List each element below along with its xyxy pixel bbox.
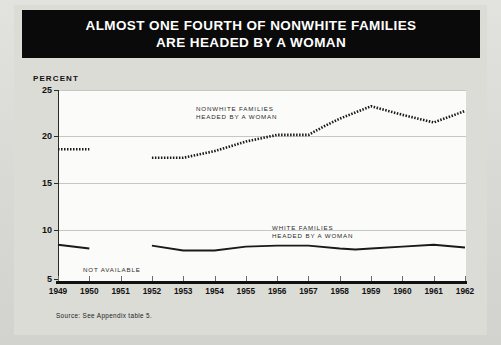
x-tick-mark-1955 [246, 90, 247, 281]
x-tick-mark-1959 [371, 90, 372, 281]
y-tick-label-15: 15 [26, 178, 52, 188]
x-tick-1954 [215, 276, 216, 281]
x-tick-mark-1952 [152, 90, 153, 281]
x-tick-label-1957: 1957 [299, 286, 317, 296]
x-tick-label-1952: 1952 [143, 286, 161, 296]
x-tick-1959 [371, 276, 372, 281]
y-tick-label-10: 10 [26, 225, 52, 235]
annotation-nonwhite-line1: NONWHITE FAMILIES [196, 105, 277, 113]
annotation-not-available: NOT AVAILABLE [83, 266, 141, 273]
x-tick-label-1950: 1950 [80, 286, 98, 296]
x-tick-mark-1951 [121, 90, 122, 281]
annotation-nonwhite-line2: HEADED BY A WOMAN [196, 113, 277, 121]
x-tick-mark-1960 [402, 90, 403, 281]
annotation-white-line1: WHITE FAMILIES [272, 224, 353, 232]
source-note: Source: See Appendix table 5. [56, 312, 152, 319]
x-tick-1952 [152, 276, 153, 281]
annotation-nonwhite: NONWHITE FAMILIES HEADED BY A WOMAN [196, 105, 277, 121]
y-tick-label-25: 25 [26, 85, 52, 95]
x-tick-mark-1954 [215, 90, 216, 281]
x-tick-1956 [277, 276, 278, 281]
x-tick-label-1949: 1949 [49, 286, 67, 296]
x-tick-1961 [434, 276, 435, 281]
x-tick-1949 [58, 276, 59, 281]
x-tick-label-1954: 1954 [205, 286, 223, 296]
x-tick-mark-1962 [465, 90, 466, 281]
x-tick-1957 [308, 276, 309, 281]
x-tick-label-1953: 1953 [174, 286, 192, 296]
annotation-white: WHITE FAMILIES HEADED BY A WOMAN [272, 224, 353, 240]
x-tick-1962 [465, 276, 466, 281]
x-tick-mark-1950 [89, 90, 90, 281]
x-tick-1953 [183, 276, 184, 281]
x-tick-label-1958: 1958 [331, 286, 349, 296]
x-tick-label-1955: 1955 [237, 286, 255, 296]
x-tick-label-1956: 1956 [268, 286, 286, 296]
x-tick-label-1951: 1951 [111, 286, 129, 296]
x-tick-1950 [89, 276, 90, 281]
x-tick-mark-1957 [308, 90, 309, 281]
x-tick-mark-1961 [434, 90, 435, 281]
y-tick-label-20: 20 [26, 131, 52, 141]
x-tick-1958 [340, 276, 341, 281]
annotation-white-line2: HEADED BY A WOMAN [272, 232, 353, 240]
x-tick-label-1959: 1959 [362, 286, 380, 296]
x-tick-1955 [246, 276, 247, 281]
x-tick-mark-1958 [340, 90, 341, 281]
x-tick-mark-1949 [58, 90, 59, 281]
x-tick-label-1960: 1960 [393, 286, 411, 296]
x-tick-1951 [121, 276, 122, 281]
x-tick-1960 [402, 276, 403, 281]
y-tick-label-5: 5 [26, 274, 52, 284]
chart-page: ALMOST ONE FOURTH OF NONWHITE FAMILIES A… [0, 0, 501, 345]
plot-wrapper: 25 20 15 10 5 NONWHITE FAMILIES HEADED B… [0, 0, 501, 345]
x-tick-mark-1956 [277, 90, 278, 281]
x-tick-label-1961: 1961 [424, 286, 442, 296]
x-axis-baseline [56, 281, 467, 284]
x-tick-mark-1953 [183, 90, 184, 281]
x-tick-label-1962: 1962 [456, 286, 474, 296]
